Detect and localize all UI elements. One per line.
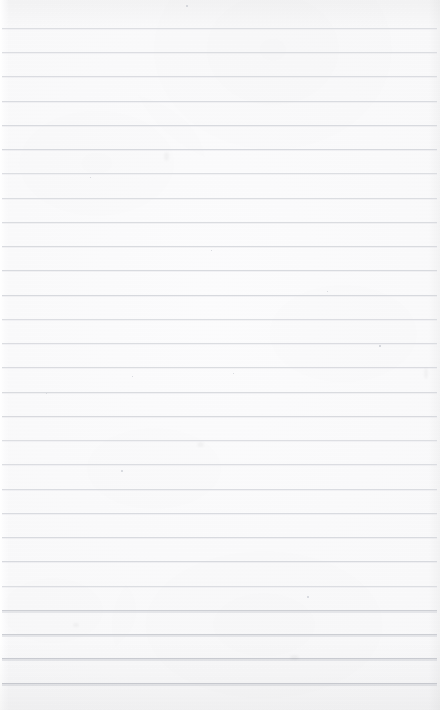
rule-line <box>2 222 437 223</box>
rule-line <box>2 464 437 465</box>
paper-speck <box>379 345 381 347</box>
paper-speck <box>307 596 309 598</box>
rule-line <box>2 537 437 538</box>
rule-line <box>2 489 437 490</box>
rule-line <box>2 367 437 368</box>
rule-line <box>2 198 437 199</box>
rule-line <box>2 125 437 126</box>
paper-speck <box>186 5 188 7</box>
paper-smudge <box>164 152 169 161</box>
rule-line <box>2 28 437 29</box>
rule-line <box>2 101 437 102</box>
rule-line <box>2 392 437 393</box>
rule-line <box>2 295 437 296</box>
rule-line <box>2 513 437 514</box>
rule-line <box>2 440 437 441</box>
rule-line <box>2 416 437 417</box>
paper-speck <box>121 470 123 472</box>
rule-line <box>2 76 437 77</box>
bottom-edge-shadow <box>0 640 440 710</box>
rule-line <box>2 173 437 174</box>
rule-line <box>2 52 437 53</box>
rule-line <box>2 246 437 247</box>
rule-line <box>2 610 437 611</box>
ruled-lines-group <box>0 0 440 710</box>
paper-smudge <box>424 368 428 379</box>
paper-smudge <box>197 442 204 447</box>
rule-line <box>2 343 437 344</box>
paper-smudge <box>73 623 79 627</box>
rule-line <box>2 270 437 271</box>
rule-line <box>2 561 437 562</box>
scanned-paper-page <box>0 0 440 710</box>
rule-line <box>2 149 437 150</box>
rule-line <box>2 586 437 587</box>
rule-line <box>2 634 437 635</box>
rule-line <box>2 319 437 320</box>
